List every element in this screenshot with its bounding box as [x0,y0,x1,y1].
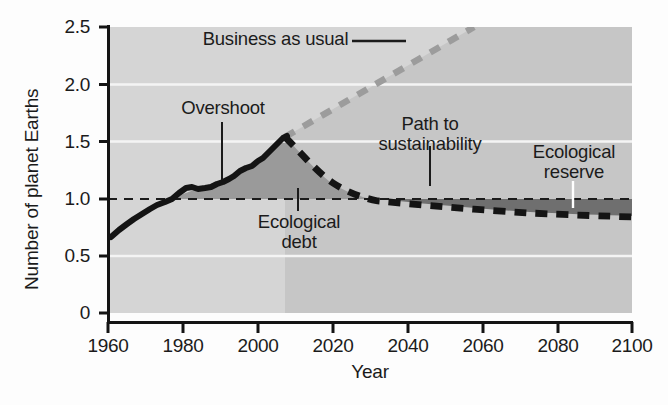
x-tick-label-2000: 2000 [218,335,298,357]
x-tick-label-2060: 2060 [443,335,523,357]
y-axis-title: Number of planet Earths [21,89,43,290]
annotation-ecological-reserve-line1: Ecological [513,142,635,162]
x-tick-label-2100: 2100 [592,335,668,357]
annotation-business-as-usual: Business as usual [198,29,353,49]
x-tick-label-2020: 2020 [293,335,373,357]
annotation-ecological-debt-line2: debt [238,232,360,252]
annotation-path-to-sustainability: Path to sustainability [365,114,495,154]
annotation-ecological-reserve: Ecological reserve [513,142,635,182]
annotation-ecological-reserve-line2: reserve [513,162,635,182]
x-tick-label-2080: 2080 [518,335,598,357]
x-axis-title: Year [270,361,470,383]
annotation-ecological-debt-line1: Ecological [238,212,360,232]
annotation-path-to-sustainability-line1: Path to [365,114,495,134]
y-tick-label-0: 0 [26,302,90,324]
y-tick-label-2.5: 2.5 [26,16,90,38]
annotation-path-to-sustainability-line2: sustainability [365,134,495,154]
ecological-footprint-chart: 2.5 2.0 1.5 1.0 0.5 0 1960 1980 2000 202… [0,0,668,405]
annotation-overshoot: Overshoot [168,98,278,118]
x-tick-label-1960: 1960 [68,335,148,357]
annotation-ecological-debt: Ecological debt [238,212,360,252]
x-tick-label-1980: 1980 [143,335,223,357]
x-tick-label-2040: 2040 [368,335,448,357]
